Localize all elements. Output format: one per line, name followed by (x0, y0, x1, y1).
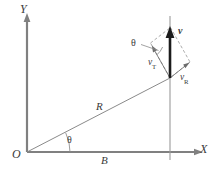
velocity-vector-label: v (178, 26, 182, 36)
origin-label: O (12, 148, 21, 160)
radial-component-subscript: R (184, 78, 189, 85)
y-axis-label: Y (20, 3, 27, 15)
radial-component-arrowhead (183, 62, 189, 68)
theta-leader-line (141, 45, 159, 51)
x-axis-label: X (200, 143, 207, 155)
radial-component-label: vR (180, 73, 189, 85)
vector-angle-label: θ (131, 38, 136, 48)
transverse-component-subscript: T (152, 63, 156, 70)
diagram-canvas (0, 0, 215, 177)
vector-diagram-figure: Y X O R B θ θ v vT vR (0, 0, 215, 177)
baseline-label: B (101, 155, 108, 166)
origin-angle-label: θ (67, 135, 72, 145)
radius-ray (27, 78, 170, 152)
transverse-component-label: vT (148, 58, 156, 70)
radius-label: R (96, 101, 103, 112)
velocity-vector-arrowhead (166, 26, 175, 38)
transverse-component-arrow (155, 51, 171, 79)
